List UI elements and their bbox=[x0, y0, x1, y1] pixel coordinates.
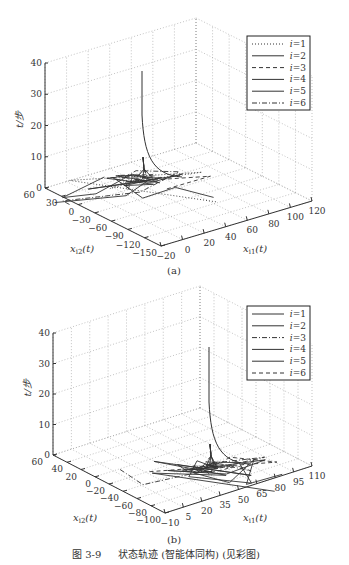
legend-label: i=2 bbox=[290, 321, 306, 331]
x-tick bbox=[268, 210, 269, 214]
z-axis-label: t/步 bbox=[14, 110, 25, 128]
x-tick-label: 5 bbox=[186, 512, 192, 522]
gridline bbox=[45, 143, 196, 188]
y-tick bbox=[78, 204, 82, 205]
x-tick bbox=[203, 229, 204, 233]
gridline bbox=[153, 156, 269, 214]
trajectory-i1 bbox=[70, 157, 216, 202]
gridline bbox=[45, 112, 196, 157]
x-axis bbox=[161, 201, 312, 246]
z-tick-label: 10 bbox=[39, 420, 51, 430]
x-axis-label: xi1(t) bbox=[243, 243, 267, 256]
x-tick-label: 20 bbox=[203, 238, 215, 248]
y-tick bbox=[123, 490, 127, 491]
x-tick bbox=[274, 474, 275, 478]
figure-caption-text: 状态轨迹 (智能体同构) (见彩图) bbox=[118, 548, 260, 560]
gridline bbox=[196, 143, 312, 201]
legend-label: i=5 bbox=[290, 86, 306, 96]
y-tick bbox=[67, 461, 71, 462]
x-tick bbox=[225, 223, 226, 227]
y-tick-label: −150 bbox=[132, 248, 157, 258]
legend-label: i=3 bbox=[290, 63, 306, 73]
legend-label: i=1 bbox=[290, 39, 306, 49]
figure-caption-number: 图 3-9 bbox=[72, 549, 101, 560]
y-tick bbox=[161, 245, 165, 246]
y-axis-label: xi2(t) bbox=[70, 243, 94, 256]
y-tick bbox=[144, 237, 148, 238]
legend-label: i=4 bbox=[290, 344, 306, 354]
x-tick-label: −20 bbox=[157, 251, 176, 261]
legend-label: i=2 bbox=[290, 51, 306, 61]
y-axis-label: xi2(t) bbox=[73, 512, 97, 525]
y-tick bbox=[111, 220, 115, 221]
y-tick bbox=[45, 187, 49, 188]
y-tick-label: 30 bbox=[46, 198, 58, 208]
y-tick-label: 60 bbox=[24, 190, 36, 200]
gridline bbox=[128, 184, 279, 229]
x-tick bbox=[182, 503, 183, 507]
y-tick bbox=[151, 505, 155, 506]
x-tick bbox=[201, 497, 202, 501]
y-tick bbox=[95, 212, 99, 213]
converged-trajectory bbox=[209, 347, 249, 464]
y-tick-label: 20 bbox=[66, 472, 78, 482]
y-tick bbox=[109, 483, 113, 484]
chart-panel-a: 01020304060300−30−60−90−120−150−20020406… bbox=[14, 18, 326, 261]
legend-label: i=4 bbox=[290, 74, 306, 84]
z-tick-label: 40 bbox=[31, 58, 43, 68]
z-tick-label: 20 bbox=[31, 121, 43, 131]
x-tick bbox=[246, 216, 247, 220]
x-tick bbox=[219, 491, 220, 495]
x-tick-label: 80 bbox=[268, 219, 280, 229]
z-tick-label: 0 bbox=[44, 450, 50, 460]
panel-label-b: (b) bbox=[167, 534, 181, 545]
converged-trajectory bbox=[142, 71, 182, 177]
z-tick-label: 20 bbox=[39, 389, 51, 399]
gridline bbox=[196, 112, 312, 170]
x-tick-label: 60 bbox=[247, 225, 259, 235]
y-tick bbox=[137, 498, 141, 499]
legend-label: i=5 bbox=[290, 356, 306, 366]
x-tick-label: 100 bbox=[287, 212, 304, 222]
x-tick-label: 35 bbox=[219, 500, 231, 510]
x-tick-label: 120 bbox=[308, 206, 325, 216]
y-tick bbox=[81, 469, 85, 470]
x-tick-label: 80 bbox=[275, 483, 287, 493]
z-tick-label: 0 bbox=[36, 183, 42, 193]
legend-label: i=1 bbox=[290, 309, 306, 319]
x-tick-label: 20 bbox=[201, 506, 213, 516]
x-tick bbox=[289, 203, 290, 207]
z-tick-label: 30 bbox=[31, 89, 43, 99]
gridline bbox=[45, 18, 196, 63]
z-tick-label: 10 bbox=[31, 152, 43, 162]
gridline bbox=[45, 49, 196, 94]
chart-panel-b: 0102030406040200−20−40−60−80−100−1052035… bbox=[22, 286, 326, 528]
z-axis-label: t/步 bbox=[22, 378, 33, 396]
panel-label-a: (a) bbox=[167, 265, 181, 276]
y-tick-label: −100 bbox=[136, 515, 161, 525]
x-tick-label: 95 bbox=[293, 477, 305, 487]
trajectory-i6 bbox=[63, 157, 179, 205]
gridline bbox=[45, 81, 196, 126]
y-tick-label: 40 bbox=[52, 464, 64, 474]
gridline bbox=[62, 151, 213, 196]
x-tick-label: −10 bbox=[161, 518, 180, 528]
z-tick-label: 40 bbox=[39, 328, 51, 338]
x-tick bbox=[293, 468, 294, 472]
y-tick bbox=[128, 228, 132, 229]
legend-label: i=6 bbox=[290, 98, 306, 108]
x-tick-label: 40 bbox=[225, 232, 237, 242]
gridline bbox=[144, 193, 295, 238]
x-axis-label: xi1(t) bbox=[243, 512, 267, 525]
legend-label: i=3 bbox=[290, 333, 306, 343]
x-tick-label: 110 bbox=[308, 471, 325, 481]
x-tick bbox=[182, 236, 183, 240]
z-tick-label: 30 bbox=[39, 359, 51, 369]
x-tick-label: 0 bbox=[185, 245, 191, 255]
x-tick-label: 50 bbox=[238, 495, 250, 505]
y-tick-label: 60 bbox=[32, 457, 44, 467]
legend-label: i=6 bbox=[290, 368, 306, 378]
gridline bbox=[196, 143, 312, 201]
y-tick bbox=[53, 454, 57, 455]
y-tick bbox=[165, 512, 169, 513]
